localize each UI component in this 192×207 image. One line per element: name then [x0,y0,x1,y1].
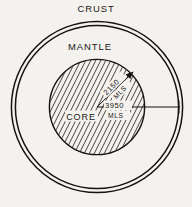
crust-label: CRUST [77,3,114,14]
earth-radius-dimension-group: 3950 MLS [104,101,132,121]
core-hatch-fill [8,44,179,176]
earth-diagram-canvas: CRUST MANTLE CORE 2150 MLS 3950 MLS [0,0,192,207]
earth-cross-section-diagram: CRUST MANTLE CORE 2150 MLS 3950 MLS [0,0,192,207]
earth-radius-value: 3950 [105,101,124,110]
mantle-label: MANTLE [68,41,112,52]
core-label: CORE [66,112,96,122]
earth-radius-unit: MLS [108,112,123,119]
